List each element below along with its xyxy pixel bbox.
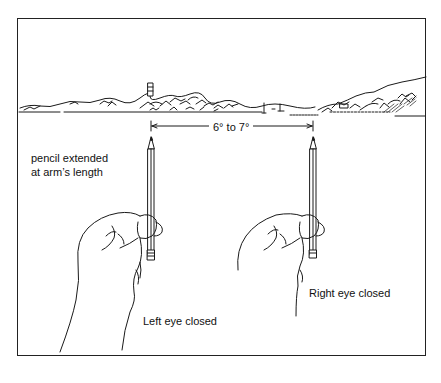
illustration [0,0,441,383]
measurement-label: 6° to 7° [209,120,253,134]
left-eye-caption: Left eye closed [143,314,217,328]
landscape [19,77,426,116]
right-eye-caption: Right eye closed [309,286,390,300]
lighthouse-icon [148,83,153,96]
pencil-caption-line2: at arm’s length [31,165,103,179]
left-hand-icon [60,212,162,352]
right-pencil-icon [310,137,317,258]
left-pencil-icon [148,137,155,260]
pencil-caption-line1: pencil extended [31,151,108,165]
